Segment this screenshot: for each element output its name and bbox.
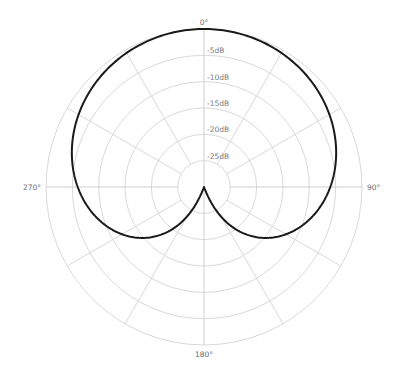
angle-labels: 0°90°180°270°: [23, 18, 381, 359]
ring-labels: -5dB-10dB-15dB-20dB-25dB: [207, 46, 229, 160]
polar-pattern-chart: -5dB-10dB-15dB-20dB-25dB 0°90°180°270°: [0, 0, 403, 380]
angle-label-90: 90°: [367, 183, 381, 192]
angle-label-270: 270°: [23, 183, 41, 192]
ring-label: -5dB: [207, 46, 224, 55]
angle-label-180: 180°: [195, 350, 213, 359]
ring-label: -25dB: [207, 152, 229, 161]
ring-label: -15dB: [207, 99, 229, 108]
angle-label-0: 0°: [200, 18, 209, 27]
ring-label: -20dB: [207, 125, 229, 134]
ring-label: -10dB: [207, 73, 229, 82]
